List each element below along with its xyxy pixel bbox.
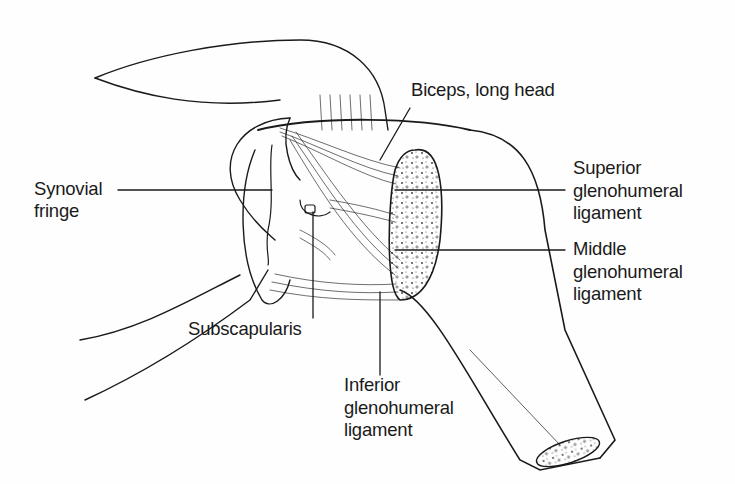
leader-lines: [118, 108, 565, 375]
glenoid-rim: [243, 150, 290, 304]
humeral-head-cut: [389, 150, 442, 300]
label-biceps-long-head: Biceps, long head: [411, 79, 555, 101]
label-subscapularis: Subscapularis: [188, 318, 302, 340]
label-synovial-fringe-line1: Synovial: [34, 178, 102, 200]
coracoid-outline: [230, 118, 290, 240]
label-middle-gh-line1: Middle: [573, 238, 626, 260]
label-middle-gh-line3: ligament: [573, 283, 641, 305]
label-middle-gh-line2: glenohumeral: [573, 261, 683, 283]
label-inferior-gh-line1: Inferior: [344, 374, 400, 396]
synovial-fringe: [267, 145, 272, 265]
label-inferior-gh-line2: glenohumeral: [344, 397, 454, 419]
shoulder-anatomy-diagram: Biceps, long head Synovial fringe Superi…: [0, 0, 735, 484]
label-inferior-gh-line3: ligament: [344, 419, 412, 441]
label-synovial-fringe-line2: fringe: [34, 200, 79, 222]
acromion-outline: [95, 40, 388, 130]
label-superior-gh-line1: Superior: [573, 157, 641, 179]
label-superior-gh-line2: glenohumeral: [573, 180, 683, 202]
label-superior-gh-line3: ligament: [573, 202, 641, 224]
